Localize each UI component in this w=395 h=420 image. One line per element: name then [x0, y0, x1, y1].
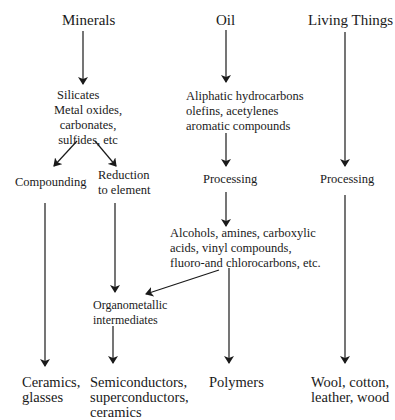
node-alcohols: Alcohols, amines, carboxylic acids, viny…	[170, 226, 321, 271]
ceramics-line-2: glasses	[22, 390, 80, 405]
silicates-line-1: Silicates	[52, 88, 124, 103]
node-compounding: Compounding	[15, 175, 87, 190]
node-reduction: Reduction to element	[98, 168, 150, 198]
aliphatic-line-3: aromatic compounds	[186, 119, 304, 134]
source-oil: Oil	[216, 13, 235, 28]
node-processing-oil: Processing	[203, 172, 257, 187]
source-living-things: Living Things	[308, 13, 393, 28]
reduction-line-2: to element	[98, 183, 150, 198]
product-polymers: Polymers	[209, 375, 264, 390]
alcohols-line-3: fluoro-and chlorocarbons, etc.	[170, 256, 321, 271]
wool-line-2: leather, wood	[311, 390, 389, 405]
semiconductors-line-2: superconductors,	[90, 390, 189, 405]
semiconductors-line-1: Semiconductors,	[90, 375, 189, 390]
silicates-line-4: sulfides, etc	[52, 133, 124, 148]
node-silicates: Silicates Metal oxides, carbonates, sulf…	[52, 88, 124, 148]
ceramics-line-1: Ceramics,	[22, 375, 80, 390]
organometallic-line-2: intermediates	[93, 313, 167, 328]
semiconductors-line-3: ceramics	[90, 405, 189, 420]
alcohols-line-2: acids, vinyl compounds,	[170, 241, 321, 256]
product-ceramics: Ceramics, glasses	[22, 375, 80, 405]
silicates-line-2: Metal oxides,	[52, 103, 124, 118]
reduction-line-1: Reduction	[98, 168, 150, 183]
product-semiconductors: Semiconductors, superconductors, ceramic…	[90, 375, 189, 420]
node-processing-living: Processing	[320, 172, 374, 187]
wool-line-1: Wool, cotton,	[311, 375, 389, 390]
source-minerals: Minerals	[62, 13, 115, 28]
aliphatic-line-1: Aliphatic hydrocarbons	[186, 89, 304, 104]
arrow-alcohols-to-organometallic	[146, 270, 219, 294]
node-aliphatic: Aliphatic hydrocarbons olefins, acetylen…	[186, 89, 304, 134]
product-wool: Wool, cotton, leather, wood	[311, 375, 389, 405]
aliphatic-line-2: olefins, acetylenes	[186, 104, 304, 119]
node-organometallic: Organometallic intermediates	[93, 298, 167, 328]
organometallic-line-1: Organometallic	[93, 298, 167, 313]
alcohols-line-1: Alcohols, amines, carboxylic	[170, 226, 321, 241]
silicates-line-3: carbonates,	[52, 118, 124, 133]
